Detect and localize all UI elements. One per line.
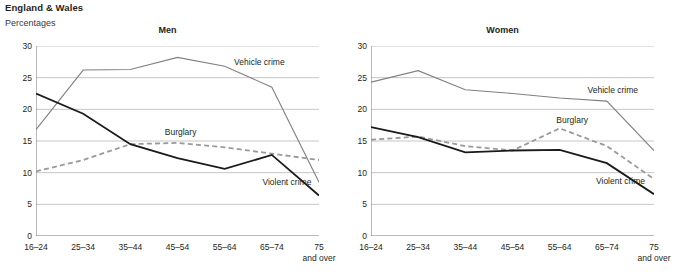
x-tick-label-primary: 65–74 — [595, 242, 619, 252]
x-tick-label-primary: 35–44 — [454, 242, 478, 252]
y-tick-label: 30 — [12, 41, 32, 51]
x-tick-label-primary: 45–54 — [166, 242, 190, 252]
y-tick-label: 25 — [347, 73, 367, 83]
series-label-vehicle-crime: Vehicle crime — [234, 57, 285, 67]
y-tick-label: 20 — [347, 104, 367, 114]
y-tick-label: 20 — [12, 104, 32, 114]
header-title: England & Wales — [5, 2, 83, 13]
x-tick-label-primary: 35–44 — [119, 242, 143, 252]
y-tick-label: 30 — [347, 41, 367, 51]
x-tick-label-primary: 55–64 — [213, 242, 237, 252]
x-tick-label: 16–24 — [10, 242, 62, 253]
chart-title-women: Women — [335, 25, 670, 35]
x-tick-label: 35–44 — [439, 242, 491, 253]
x-tick-label: 25–34 — [392, 242, 444, 253]
y-tick-label: 0 — [347, 231, 367, 241]
x-tick-label-primary: 25–34 — [71, 242, 95, 252]
y-tick-label: 5 — [347, 199, 367, 209]
series-line-vehicle-crime — [36, 57, 319, 182]
x-tick-label: 75and over — [628, 242, 676, 264]
x-axis-men: 16–2425–3435–4445–5455–6465–7475and over — [36, 242, 319, 276]
series-line-burglary — [36, 143, 319, 172]
x-tick-label-primary: 65–74 — [260, 242, 284, 252]
chart-svg-women — [371, 46, 654, 236]
y-axis-women: 051015202530 — [345, 46, 367, 236]
x-tick-label: 65–74 — [581, 242, 633, 253]
x-tick-label-secondary: and over — [628, 253, 676, 264]
x-tick-label-primary: 16–24 — [24, 242, 48, 252]
x-tick-label-primary: 75 — [649, 242, 658, 252]
x-tick-label-primary: 75 — [314, 242, 323, 252]
x-tick-label: 55–64 — [534, 242, 586, 253]
series-label-violent-crime: Violent crime — [262, 177, 311, 187]
x-tick-label: 45–54 — [152, 242, 204, 253]
y-tick-label: 0 — [12, 231, 32, 241]
chart-svg-men — [36, 46, 319, 236]
series-label-violent-crime: Violent crime — [596, 176, 645, 186]
series-line-vehicle-crime — [371, 71, 654, 151]
plot-area-women: Vehicle crimeBurglaryViolent crime — [371, 46, 654, 236]
x-tick-label-primary: 55–64 — [548, 242, 572, 252]
x-tick-label: 16–24 — [345, 242, 397, 253]
x-tick-label: 25–34 — [57, 242, 109, 253]
chart-title-men: Men — [0, 25, 335, 35]
x-tick-label-primary: 25–34 — [406, 242, 430, 252]
x-tick-label-primary: 45–54 — [501, 242, 525, 252]
y-tick-label: 5 — [12, 199, 32, 209]
chart-panel-women: Women 051015202530 Vehicle crimeBurglary… — [335, 22, 670, 276]
y-tick-label: 10 — [12, 168, 32, 178]
x-axis-women: 16–2425–3435–4445–5455–6465–7475and over — [371, 242, 654, 276]
chart-panel-men: Men 051015202530 Vehicle crimeBurglaryVi… — [0, 22, 335, 276]
series-label-burglary: Burglary — [556, 115, 588, 125]
x-tick-label: 35–44 — [104, 242, 156, 253]
plot-area-men: Vehicle crimeBurglaryViolent crime — [36, 46, 319, 236]
x-tick-label: 55–64 — [199, 242, 251, 253]
y-tick-label: 15 — [347, 136, 367, 146]
y-axis-men: 051015202530 — [10, 46, 32, 236]
x-tick-label: 65–74 — [246, 242, 298, 253]
y-tick-label: 15 — [12, 136, 32, 146]
x-tick-label-primary: 16–24 — [359, 242, 383, 252]
series-label-burglary: Burglary — [165, 127, 197, 137]
series-label-vehicle-crime: Vehicle crime — [587, 85, 638, 95]
x-tick-label: 45–54 — [487, 242, 539, 253]
y-tick-label: 10 — [347, 168, 367, 178]
y-tick-label: 25 — [12, 73, 32, 83]
